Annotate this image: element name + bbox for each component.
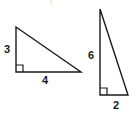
- geometry-figure: | 3 4 6 2: [0, 0, 139, 114]
- right-triangle: [100, 9, 128, 95]
- geometry-canvas: [0, 0, 139, 114]
- left-triangle-outline: [16, 27, 81, 72]
- left-triangle-vertical-leg-label: 3: [4, 44, 10, 55]
- top-edge-artifact: |: [50, 0, 52, 5]
- right-triangle-vertical-leg-label: 6: [88, 50, 94, 61]
- right-triangle-right-angle-icon: [100, 88, 107, 95]
- left-triangle: [16, 27, 81, 72]
- right-triangle-horizontal-leg-label: 2: [113, 100, 119, 111]
- right-triangle-outline: [100, 9, 128, 95]
- left-triangle-horizontal-leg-label: 4: [42, 75, 48, 86]
- left-triangle-right-angle-icon: [16, 65, 23, 72]
